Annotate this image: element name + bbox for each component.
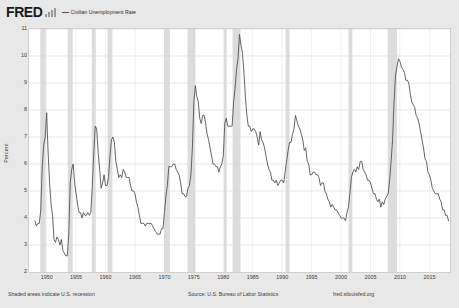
x-tick-label: 1985 [247,274,259,280]
recession-note: Shaded areas indicate U.S. recession [8,291,95,297]
y-axis-title: Percent [3,133,9,173]
y-tick-label: 8 [3,106,27,112]
series-line-civilian-unemployment-rate [35,34,449,255]
x-tick-label: 1975 [188,274,200,280]
source-note: Source: U.S. Bureau of Labor Statistics [188,291,278,297]
x-tick-label: 2005 [365,274,377,280]
y-tick-label: 10 [3,52,27,58]
series-legend-label: Civilian Unemployment Rate [71,9,136,15]
recession-band [388,29,397,272]
y-tick-label: 11 [3,25,27,31]
fred-chart-card: FRED Civilian Unemployment Rate Percent … [0,0,459,308]
recession-band [286,29,290,272]
x-axis: 1950195519601965197019751980198519901995… [0,274,459,286]
recession-band [188,29,196,272]
chart-footer: Shaded areas indicate U.S. recession Sou… [0,288,459,308]
y-axis: Percent 234567891011 [0,0,27,308]
plot-area [28,28,451,273]
series-legend: Civilian Unemployment Rate [62,9,136,15]
chart-header: FRED Civilian Unemployment Rate [0,0,459,24]
x-tick-label: 1995 [306,274,318,280]
y-tick-label: 9 [3,79,27,85]
x-tick-label: 1980 [217,274,229,280]
bar-chart-icon [45,8,56,17]
recession-band [224,29,227,272]
y-tick-label: 7 [3,133,27,139]
x-tick-label: 2010 [394,274,406,280]
x-tick-label: 1965 [129,274,141,280]
x-tick-label: 1950 [41,274,53,280]
x-tick-label: 1960 [100,274,112,280]
recession-band [164,29,170,272]
y-tick-label: 4 [3,214,27,220]
y-tick-label: 5 [3,187,27,193]
x-tick-label: 2000 [335,274,347,280]
fred-url[interactable]: fred.stlouisfed.org [333,291,374,297]
y-tick-label: 3 [3,241,27,247]
unemployment-line-chart [29,29,450,272]
x-tick-label: 2015 [423,274,435,280]
y-tick-label: 6 [3,160,27,166]
x-tick-label: 1955 [70,274,82,280]
recession-band [348,29,352,272]
recession-band [233,29,241,272]
legend-line-swatch [62,12,69,13]
recession-band [107,29,112,272]
x-tick-label: 1990 [276,274,288,280]
x-tick-label: 1970 [158,274,170,280]
